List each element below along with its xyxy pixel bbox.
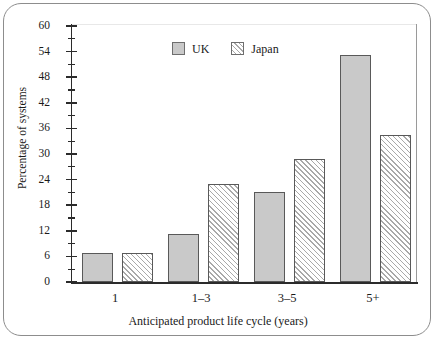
y-axis-tick-label: 60	[10, 20, 50, 32]
x-axis-line	[71, 282, 418, 284]
y-axis-tick-label: 36	[10, 122, 50, 134]
y-axis-tick-label: 48	[10, 71, 50, 83]
x-axis-tick-label: 1	[70, 292, 160, 305]
plot-right-border	[416, 24, 417, 283]
y-axis-tick-label: 30	[10, 148, 50, 160]
x-axis-title: Anticipated product life cycle (years)	[4, 314, 432, 329]
bar-uk-2	[254, 192, 285, 282]
x-axis-tick-label: 3–5	[242, 292, 332, 305]
y-axis-tick-label: 6	[10, 250, 50, 262]
bar-japan-1	[208, 184, 239, 282]
y-axis-tick-label: 42	[10, 97, 50, 109]
y-axis-tick-label: 0	[10, 276, 50, 288]
bar-japan-3	[380, 135, 411, 282]
y-axis-tick-label: 54	[10, 46, 50, 58]
x-axis-tick-label: 1–3	[156, 292, 246, 305]
bar-japan-0	[122, 253, 153, 282]
x-axis-tick-label: 5+	[328, 292, 418, 305]
bar-japan-2	[294, 159, 325, 282]
y-axis-tick-label: 18	[10, 199, 50, 211]
y-axis-tick-label: 12	[10, 225, 50, 237]
y-axis-tick-label: 24	[10, 174, 50, 186]
bar-uk-0	[82, 253, 113, 282]
bar-uk-3	[340, 55, 371, 282]
figure-frame: Percentage of systems 061218243036424854…	[3, 3, 431, 336]
plot-top-border	[71, 24, 417, 25]
bar-uk-1	[168, 234, 199, 282]
plot-area	[72, 26, 416, 282]
